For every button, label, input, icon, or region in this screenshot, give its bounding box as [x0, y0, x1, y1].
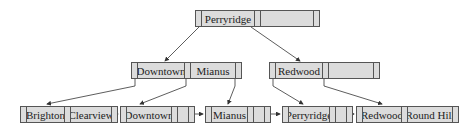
pointer-cell: [236, 63, 241, 78]
root-node: Perryridge: [195, 10, 320, 27]
key-cell: Brighton: [27, 107, 65, 122]
internal-node: Downtown Mianus: [131, 62, 242, 79]
pointer-cell: [347, 107, 352, 122]
pointer-cell: [112, 107, 117, 122]
leaf-node: Downtown: [120, 106, 195, 123]
key-cell: Mianus: [191, 63, 236, 78]
key-cell: [178, 107, 189, 122]
key-cell: Redwood: [276, 63, 323, 78]
leaf-node: Perryridge: [282, 106, 353, 123]
key-cell: Redwood: [363, 107, 402, 122]
leaf-node: Mianus: [205, 106, 271, 123]
pointer-cell: [189, 107, 194, 122]
leaf-node: Brighton Clearview: [20, 106, 118, 123]
key-cell: [261, 11, 314, 26]
key-cell: Downtown: [138, 63, 185, 78]
key-cell: Perryridge: [289, 107, 330, 122]
key-cell: Mianus: [212, 107, 248, 122]
internal-node: Redwood: [269, 62, 380, 79]
key-cell: Perryridge: [202, 11, 255, 26]
key-cell: [254, 107, 265, 122]
pointer-cell: [314, 11, 319, 26]
key-cell: [329, 63, 374, 78]
leaf-node: Redwood Round Hill: [356, 106, 459, 123]
key-cell: Downtown: [127, 107, 172, 122]
pointer-cell: [374, 63, 379, 78]
pointer-cell: [453, 107, 458, 122]
key-cell: Round Hill: [408, 107, 453, 122]
pointer-cell: [265, 107, 270, 122]
key-cell: [336, 107, 347, 122]
key-cell: Clearview: [71, 107, 112, 122]
